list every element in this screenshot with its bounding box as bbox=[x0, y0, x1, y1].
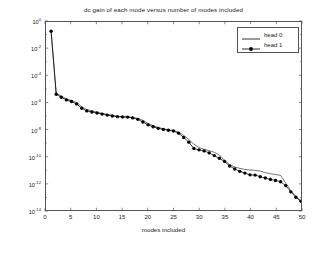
data-point-marker bbox=[264, 176, 267, 179]
x-tick-label: 10 bbox=[86, 214, 106, 220]
data-point-marker bbox=[187, 140, 190, 143]
data-point-marker bbox=[197, 148, 200, 151]
data-point-marker bbox=[121, 115, 124, 118]
data-point-marker bbox=[141, 120, 144, 123]
x-tick-label: 30 bbox=[189, 214, 209, 220]
data-point-marker bbox=[80, 107, 83, 110]
data-point-marker bbox=[289, 190, 292, 193]
figure-canvas: dc gain of each mode versus number of mo… bbox=[0, 0, 327, 256]
x-tick-label: 5 bbox=[61, 214, 81, 220]
data-point-marker bbox=[167, 129, 170, 132]
data-point-marker bbox=[208, 151, 211, 154]
x-axis-label: modes included bbox=[0, 226, 327, 233]
data-point-marker bbox=[106, 113, 109, 116]
data-point-marker bbox=[136, 118, 139, 121]
y-tick-label: 100 bbox=[17, 17, 41, 25]
data-point-marker bbox=[248, 173, 251, 176]
y-tick-label: 10-2 bbox=[17, 44, 41, 52]
data-point-marker bbox=[95, 111, 98, 114]
data-point-marker bbox=[228, 164, 231, 167]
data-point-marker bbox=[157, 127, 160, 130]
data-point-marker bbox=[218, 157, 221, 160]
data-point-marker bbox=[60, 96, 63, 99]
data-point-marker bbox=[100, 112, 103, 115]
legend-item-head-0[interactable]: head 0 bbox=[238, 30, 298, 40]
data-point-marker bbox=[279, 180, 282, 183]
data-point-marker bbox=[90, 110, 93, 113]
data-point-marker bbox=[49, 29, 52, 32]
data-point-marker bbox=[65, 98, 68, 101]
x-tick-label: 50 bbox=[292, 214, 312, 220]
data-point-marker bbox=[111, 114, 114, 117]
data-point-marker bbox=[259, 175, 262, 178]
legend-line-marker-swatch-head-1 bbox=[241, 40, 261, 50]
legend-label-head-1: head 1 bbox=[264, 42, 282, 48]
data-point-marker bbox=[253, 173, 256, 176]
data-point-marker bbox=[294, 196, 297, 199]
data-point-marker bbox=[233, 167, 236, 170]
data-point-marker bbox=[202, 149, 205, 152]
legend-item-head-1[interactable]: head 1 bbox=[238, 40, 298, 50]
y-tick-label: 10-10 bbox=[17, 153, 41, 161]
data-point-marker bbox=[213, 154, 216, 157]
series-line-head-1 bbox=[51, 31, 301, 201]
x-tick-label: 40 bbox=[241, 214, 261, 220]
data-point-marker bbox=[192, 147, 195, 150]
legend-box[interactable]: head 0 head 1 bbox=[237, 27, 299, 53]
data-point-marker bbox=[223, 160, 226, 163]
y-tick-label: 10-8 bbox=[17, 126, 41, 134]
data-point-marker bbox=[177, 132, 180, 135]
data-point-marker bbox=[284, 184, 287, 187]
data-point-marker bbox=[85, 109, 88, 112]
data-point-marker bbox=[172, 129, 175, 132]
y-tick-label: 10-12 bbox=[17, 180, 41, 188]
legend-line-swatch-head-0 bbox=[241, 30, 261, 40]
x-tick-label: 20 bbox=[138, 214, 158, 220]
data-point-marker bbox=[70, 100, 73, 103]
y-tick-label: 10-6 bbox=[17, 98, 41, 106]
data-point-marker bbox=[238, 170, 241, 173]
data-point-marker bbox=[126, 115, 129, 118]
x-tick-label: 0 bbox=[35, 214, 55, 220]
data-point-marker bbox=[151, 125, 154, 128]
data-point-marker bbox=[162, 128, 165, 131]
data-point-marker bbox=[55, 93, 58, 96]
x-tick-label: 25 bbox=[164, 214, 184, 220]
series-line-head-0 bbox=[51, 31, 301, 201]
legend-label-head-0: head 0 bbox=[264, 32, 282, 38]
page-title: dc gain of each mode versus number of mo… bbox=[0, 6, 327, 13]
data-point-marker bbox=[182, 136, 185, 139]
x-tick-label: 15 bbox=[112, 214, 132, 220]
data-point-marker bbox=[146, 123, 149, 126]
data-point-marker bbox=[131, 116, 134, 119]
data-point-marker bbox=[116, 115, 119, 118]
y-tick-label: 10-4 bbox=[17, 71, 41, 79]
data-point-marker bbox=[75, 102, 78, 105]
data-point-marker bbox=[274, 179, 277, 182]
data-point-marker bbox=[243, 171, 246, 174]
x-tick-label: 35 bbox=[215, 214, 235, 220]
data-point-marker bbox=[269, 178, 272, 181]
x-tick-label: 45 bbox=[266, 214, 286, 220]
